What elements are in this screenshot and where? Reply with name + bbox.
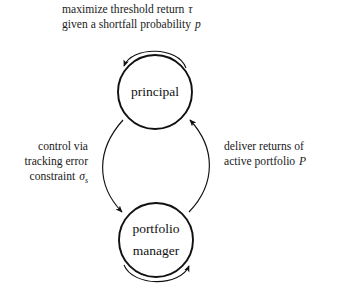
edge-label-deliver-line-2: active portfolio P [224,155,306,168]
caption-line-1: maximize threshold return τ [62,3,193,16]
node-principal-label: principal [131,84,179,99]
caption-line-1-symbol-tau: τ [188,3,193,16]
edge-label-control-line-1: control via [38,140,88,153]
edge-label-deliver-line-2-text: active portfolio [224,155,298,168]
edge-control-via-tracking-error [103,120,123,212]
caption-line-1-text: maximize threshold return [62,3,187,16]
caption-line-2-symbol-p: p [194,18,201,31]
node-portfolio-manager[interactable] [119,203,193,277]
edge-label-control-line-2: tracking error [25,155,89,168]
diagram-canvas: maximize threshold return τ given a shor… [0,0,341,292]
diagram-root: maximize threshold return τ given a shor… [0,0,341,292]
edge-label-control-symbol-sigma-subscript: s [85,176,88,185]
edge-label-deliver-line-1: deliver returns of [224,140,304,153]
node-portfolio-manager-label-line-1: portfolio [132,221,179,236]
edge-label-control-line-3-text: constraint [30,170,79,183]
edge-label-control-line-3: constraint σs [30,170,88,185]
edge-deliver-returns [189,120,209,212]
caption-line-2: given a shortfall probability p [62,18,201,31]
caption-line-2-text: given a shortfall probability [62,18,194,31]
edge-label-deliver-symbol-p: P [298,155,306,168]
node-portfolio-manager-label-line-2: manager [133,243,180,258]
